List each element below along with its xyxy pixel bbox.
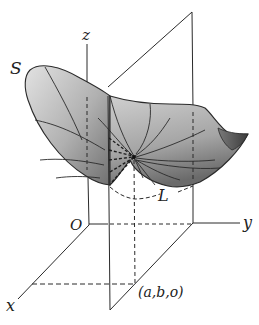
x-axis [18,225,89,299]
surface-left-lobe [25,66,110,185]
vertical-plane [108,12,193,110]
z-axis-lower [88,178,89,225]
label-S: S [10,58,22,78]
label-O: O [70,216,82,234]
label-L: L [157,186,169,205]
label-point-abo: (a,b,o) [138,284,184,300]
label-z: z [81,26,90,44]
curve-L [110,186,193,199]
label-y: y [242,213,253,232]
surface-diagram: z S L O y x (a,b,o) [0,0,259,325]
projection-line [134,160,135,283]
label-x: x [6,296,15,315]
surface-point [132,155,136,159]
